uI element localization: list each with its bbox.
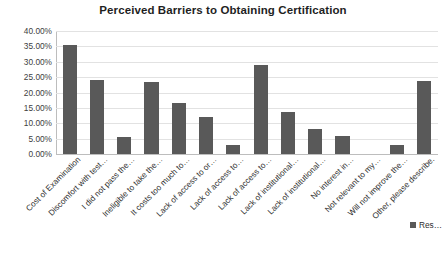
bar xyxy=(63,45,77,154)
bar-chart: Perceived Barriers to Obtaining Certific… xyxy=(0,0,446,260)
y-axis-tick-label: 15.00% xyxy=(4,104,52,112)
y-axis-tick-label: 20.00% xyxy=(4,89,52,97)
plot-area xyxy=(56,31,438,154)
bar xyxy=(90,80,104,154)
bar xyxy=(226,145,240,154)
y-axis-tick-labels: 40.00%35.00%30.00%25.00%20.00%15.00%10.0… xyxy=(0,31,52,155)
bar xyxy=(199,117,213,154)
y-axis-tick-label: 35.00% xyxy=(4,42,52,50)
bar xyxy=(172,103,186,154)
bar xyxy=(417,81,431,154)
y-axis-tick-label: 40.00% xyxy=(4,27,52,35)
bar xyxy=(254,65,268,154)
bar xyxy=(117,137,131,154)
chart-title: Perceived Barriers to Obtaining Certific… xyxy=(0,4,446,16)
bar xyxy=(308,129,322,154)
y-axis-tick-label: 10.00% xyxy=(4,119,52,127)
bar xyxy=(335,136,349,154)
bar-series xyxy=(56,31,438,154)
y-axis-tick-label: 25.00% xyxy=(4,73,52,81)
y-axis-tick-label: 0.00% xyxy=(4,150,52,158)
legend-swatch-icon xyxy=(410,222,416,228)
bar xyxy=(281,112,295,154)
y-axis-tick-label: 5.00% xyxy=(4,135,52,143)
y-axis-tick-label: 30.00% xyxy=(4,58,52,66)
legend-label: Res… xyxy=(419,221,442,229)
x-axis-category-labels: Cost of ExaminationDiscomfort with test…… xyxy=(56,155,438,255)
chart-legend: Res… xyxy=(410,221,442,229)
bar xyxy=(390,145,404,154)
bar xyxy=(144,82,158,154)
